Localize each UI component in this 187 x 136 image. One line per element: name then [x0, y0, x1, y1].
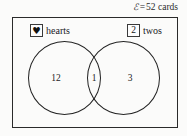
set-label-twos-text: twos: [143, 25, 162, 36]
heart-suit-icon: ♥: [30, 24, 43, 37]
region-count-twos-only: 3: [121, 73, 139, 83]
region-count-hearts-only: 12: [46, 73, 66, 83]
universe-caption: ℰ=52 cards: [0, 0, 178, 15]
set-label-hearts-text: hearts: [46, 25, 70, 36]
region-count-intersection: 1: [85, 73, 103, 83]
universe-size-value: 52 cards: [146, 2, 178, 12]
equals-sign: =: [138, 2, 146, 12]
universal-set-symbol: ℰ: [133, 2, 138, 12]
set-label-twos: 2 twos: [127, 24, 162, 37]
set-label-hearts: ♥ hearts: [30, 24, 70, 37]
venn-diagram-figure: ℰ=52 cards ♥ hearts 2 twos 12 1 3: [0, 0, 187, 136]
rank-two-icon: 2: [127, 24, 140, 37]
